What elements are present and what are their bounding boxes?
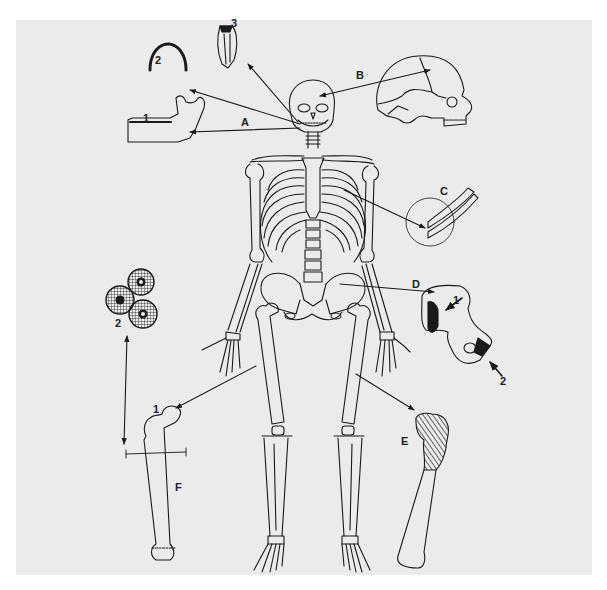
- skeleton-diagram: [0, 0, 607, 590]
- callout-a: [128, 26, 300, 142]
- label-a: A: [241, 117, 249, 128]
- label-f1-number: 1: [153, 404, 159, 415]
- skeleton: [202, 80, 410, 572]
- label-e: E: [401, 436, 408, 447]
- label-c: C: [440, 186, 448, 197]
- right-hand: [376, 332, 410, 376]
- label-f2-number: 2: [115, 318, 121, 329]
- label-a2-number: 2: [155, 55, 161, 66]
- femur-head-hatched: [416, 413, 449, 470]
- label-a1-number: 1: [143, 113, 149, 124]
- bone-cross-section: [106, 269, 157, 328]
- label-f: F: [175, 482, 182, 493]
- label-d2-number: 2: [500, 376, 506, 387]
- marked-area-1: [428, 301, 438, 332]
- callout-b: [320, 56, 472, 126]
- spine: [304, 220, 322, 282]
- mandible: [128, 96, 205, 142]
- label-a3-number: 3: [231, 18, 237, 29]
- callout-e: [356, 374, 449, 568]
- left-hand: [202, 332, 240, 376]
- label-d1-number: 1: [453, 295, 459, 306]
- label-d: D: [412, 279, 420, 290]
- tooth: [218, 26, 237, 68]
- label-b: B: [356, 70, 364, 81]
- callout-d: [340, 284, 502, 376]
- skull-front: [289, 80, 334, 132]
